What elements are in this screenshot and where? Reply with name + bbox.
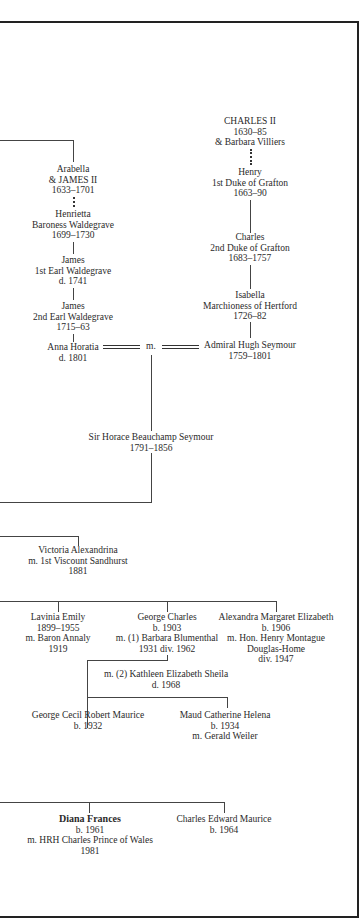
node-dates: 1715–63 [33,322,113,333]
descent-line [224,802,225,813]
node-name: Anna Horatia [47,342,98,353]
node-name: James [33,301,113,312]
node-name: James [35,255,112,266]
node-marriage-year: 1919 [25,644,90,655]
node-dates: b. 1961 [27,825,153,836]
node-george-charles: George Charles b. 1903 m. (1) Barbara Bl… [116,612,218,654]
descent-line [73,334,74,342]
sibling-line [0,601,277,602]
branch-line [0,502,152,503]
node-spouse: & Barbara Villiers [215,137,285,148]
node-name: Henrietta [32,209,114,220]
node-james-2nd-earl: James 2nd Earl Waldegrave 1715–63 [33,301,113,333]
node-spouse: & JAMES II [49,175,98,186]
node-victoria-alexandrina: Victoria Alexandrina m. 1st Viscount San… [28,545,128,577]
node-spouse: m. (1) Barbara Blumenthal [116,633,218,644]
node-name: Victoria Alexandrina [28,545,128,556]
node-dates: 1791–1856 [89,443,214,454]
frame-right-border [357,21,359,918]
node-lavinia-emily: Lavinia Emily 1899–1955 m. Baron Annaly … [25,612,90,654]
dotted-descent-line [250,149,252,165]
node-title: Marchioness of Hertford [203,301,297,312]
descent-line [250,265,251,289]
frame-bottom-border [0,916,359,918]
descent-line [250,200,251,233]
descent-line [73,140,74,162]
node-name: CHARLES II [215,116,285,127]
node-anna-horatia: Anna Horatia d. 1801 [47,342,98,363]
node-name: Charles Edward Maurice [177,814,272,825]
descent-line [151,453,152,503]
node-isabella: Isabella Marchioness of Hertford 1726–82 [203,290,297,322]
branch-line [0,140,74,141]
node-dates: b. 1964 [177,825,272,836]
descent-line [151,355,152,431]
node-george-cecil: George Cecil Robert Maurice b. 1932 [32,710,144,731]
descent-line [250,322,251,338]
node-dates: 1630–85 [215,127,285,138]
marriage-double-line-right [162,345,199,349]
marriage-label: m. [146,341,156,351]
node-dates: 1699–1730 [32,230,114,241]
node-spouse: m. HRH Charles Prince of Wales [27,835,153,846]
marriage-double-line-left [103,345,140,349]
node-charles-ii: CHARLES II 1630–85 & Barbara Villiers [215,116,285,148]
descent-line [73,288,74,300]
node-title: 1st Duke of Grafton [212,178,288,189]
frame-top-border [0,21,359,23]
node-name: Arabella [49,164,98,175]
node-name: Henry [212,167,288,178]
sibling-line [0,802,225,803]
node-name: Sir Horace Beauchamp Seymour [89,432,214,443]
node-spouse: m. Gerald Weiler [180,731,271,742]
node-charles-grafton: Charles 2nd Duke of Grafton 1683–1757 [210,232,289,264]
node-james-1st-earl: James 1st Earl Waldegrave d. 1741 [35,255,112,287]
dotted-descent-line [73,197,75,207]
node-dates: 1663–90 [212,188,288,199]
node-dates: 1726–82 [203,311,297,322]
sibling-line [87,697,228,698]
node-divorce: div. 1947 [219,654,334,665]
node-name: Lavinia Emily [25,612,90,623]
node-marriage-years: 1931 div. 1962 [116,644,218,655]
node-hugh-seymour: Admiral Hugh Seymour 1759–1801 [204,340,296,361]
node-name: Isabella [203,290,297,301]
node-name: George Cecil Robert Maurice [32,710,144,721]
descent-line [167,601,168,612]
node-dates: d. 1741 [35,276,112,287]
node-dates: 1759–1801 [204,351,296,362]
descent-line [73,242,74,254]
descent-line [89,802,90,813]
node-name: Maud Catherine Helena [180,710,271,721]
node-horace-seymour: Sir Horace Beauchamp Seymour 1791–1856 [89,432,214,453]
node-spouse: m. Hon. Henry Montague [219,633,334,644]
node-name: Admiral Hugh Seymour [204,340,296,351]
node-dates: b. 1934 [180,721,271,732]
node-name: Diana Frances [27,814,153,825]
descent-line [276,601,277,612]
node-spouse: m. (2) Kathleen Elizabeth Sheila [104,669,228,680]
node-spouse-cont: Douglas-Home [219,644,334,655]
node-henry-grafton: Henry 1st Duke of Grafton 1663–90 [212,167,288,199]
node-title: 1st Earl Waldegrave [35,266,112,277]
node-title: 2nd Duke of Grafton [210,243,289,254]
node-dates: 1881 [28,566,128,577]
node-dates: d. 1968 [104,680,228,691]
node-dates: 1683–1757 [210,253,289,264]
node-diana-frances: Diana Frances b. 1961 m. HRH Charles Pri… [27,814,153,856]
node-name: Alexandra Margaret Elizabeth [219,612,334,623]
node-dates: b. 1903 [116,623,218,634]
node-dates: b. 1932 [32,721,144,732]
descent-line [58,601,59,612]
node-dates: 1633–1701 [49,185,98,196]
branch-line [0,536,79,537]
node-name: Charles [210,232,289,243]
descent-line [227,697,228,708]
node-spouse: m. 1st Viscount Sandhurst [28,556,128,567]
node-title: 2nd Earl Waldegrave [33,312,113,323]
branch-line [87,660,168,661]
node-henrietta: Henrietta Baroness Waldegrave 1699–1730 [32,209,114,241]
node-marriage-year: 1981 [27,846,153,857]
node-alexandra-margaret: Alexandra Margaret Elizabeth b. 1906 m. … [219,612,334,665]
node-charles-edward: Charles Edward Maurice b. 1964 [177,814,272,835]
